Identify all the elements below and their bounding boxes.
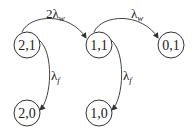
node-0-1: 0,1 bbox=[158, 32, 184, 58]
edge-21-to-20 bbox=[39, 40, 50, 110]
svg-text:2,1: 2,1 bbox=[18, 38, 36, 53]
state-diagram: 2λw λw λf λf 2,1 1,1 0,1 2,0 1,0 bbox=[0, 0, 194, 135]
node-2-1: 2,1 bbox=[14, 32, 40, 58]
edge-label-2lambda-w: 2λw bbox=[46, 6, 65, 23]
node-1-1: 1,1 bbox=[86, 32, 112, 58]
node-1-0: 1,0 bbox=[86, 100, 112, 126]
edge-label-lambda-f-right: λf bbox=[123, 68, 133, 85]
node-2-0: 2,0 bbox=[14, 100, 40, 126]
svg-text:1,1: 1,1 bbox=[90, 38, 108, 53]
edge-11-to-10 bbox=[111, 40, 122, 110]
svg-text:0,1: 0,1 bbox=[162, 38, 180, 53]
svg-text:1,0: 1,0 bbox=[90, 106, 108, 121]
edge-label-lambda-f-left: λf bbox=[51, 68, 61, 85]
svg-text:2,0: 2,0 bbox=[18, 106, 36, 121]
edge-label-lambda-w: λw bbox=[131, 6, 143, 23]
